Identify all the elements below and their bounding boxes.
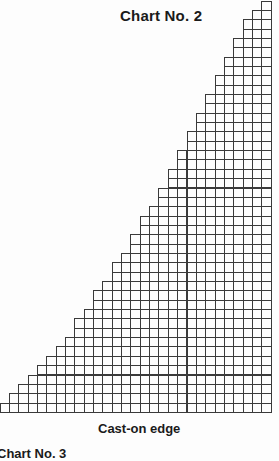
grid-cell: [252, 403, 262, 413]
grid-cell: [224, 403, 234, 413]
grid-cell: [243, 403, 253, 413]
grid-cell: [233, 403, 243, 413]
grid-cell: [56, 403, 66, 413]
grid-cell: [65, 403, 75, 413]
grid-cell: [93, 403, 103, 413]
grid-cell: [215, 403, 225, 413]
grid-cell: [46, 403, 56, 413]
knitting-chart-grid: [0, 1, 271, 415]
grid-cell: [177, 403, 187, 413]
grid-cell: [140, 403, 150, 413]
grid-cell: [9, 403, 19, 413]
next-chart-title: Chart No. 3: [0, 446, 66, 461]
grid-cell: [261, 403, 271, 413]
grid-cell: [196, 403, 206, 413]
grid-cell: [149, 403, 159, 413]
grid-cell: [158, 403, 168, 413]
grid-cell: [84, 403, 94, 413]
grid-cell: [102, 403, 112, 413]
grid-cell: [168, 403, 178, 413]
cast-on-edge-label: Cast-on edge: [98, 421, 180, 436]
grid-cell: [74, 403, 84, 413]
grid-cell: [130, 403, 140, 413]
grid-cell: [205, 403, 215, 413]
grid-cell: [187, 403, 197, 413]
grid-cell: [37, 403, 47, 413]
grid-cell: [121, 403, 131, 413]
grid-cell: [112, 403, 122, 413]
grid-cell: [18, 403, 28, 413]
grid-cell: [28, 403, 38, 413]
grid-cell: [0, 403, 10, 413]
